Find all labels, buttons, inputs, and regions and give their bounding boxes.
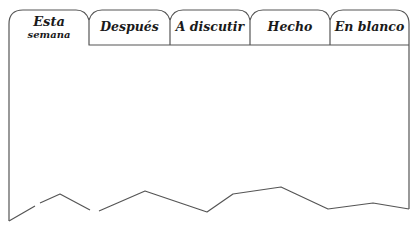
- tab-label: Hecho: [268, 21, 313, 34]
- tab-label: Esta: [33, 15, 65, 28]
- tab-label: En blanco: [335, 21, 405, 34]
- tab-content-area: [9, 45, 409, 185]
- torn-bottom-edge: [9, 187, 409, 221]
- tab-en-blanco[interactable]: En blanco: [330, 9, 409, 45]
- tab-despues[interactable]: Después: [89, 9, 170, 45]
- tab-sublabel: semana: [28, 30, 71, 40]
- tab-esta-semana[interactable]: Esta semana: [9, 9, 89, 45]
- tab-label: A discutir: [176, 21, 244, 34]
- tab-hecho[interactable]: Hecho: [250, 9, 330, 45]
- tab-label: Después: [100, 21, 159, 34]
- tab-a-discutir[interactable]: A discutir: [170, 9, 250, 45]
